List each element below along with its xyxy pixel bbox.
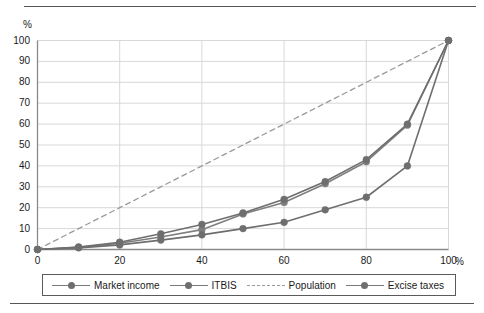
chart-legend: Market incomeITBISPopulationExcise taxes xyxy=(42,274,456,296)
legend-item[interactable]: Population xyxy=(243,279,342,291)
legend-marker-dot xyxy=(68,282,75,289)
legend-marker-dot xyxy=(361,282,368,289)
data-point-marker xyxy=(363,156,370,163)
data-point-marker xyxy=(445,37,452,44)
data-point-marker xyxy=(75,244,82,251)
legend-label: Population xyxy=(289,280,342,291)
data-point-marker xyxy=(116,242,123,249)
data-point-marker xyxy=(281,196,288,203)
data-point-marker xyxy=(240,210,247,217)
lorenz-curve-chart: % % 0102030405060708090100 020406080100 xyxy=(0,0,484,313)
data-point-marker xyxy=(322,206,329,213)
data-point-marker xyxy=(404,163,411,170)
legend-swatch xyxy=(52,279,90,291)
data-point-marker xyxy=(281,219,288,226)
legend-label: Market income xyxy=(94,280,166,291)
data-point-marker xyxy=(34,246,41,253)
legend-item[interactable]: Market income xyxy=(48,279,166,291)
legend-line xyxy=(247,285,285,286)
data-point-marker xyxy=(363,194,370,201)
data-point-marker xyxy=(199,221,206,228)
data-point-marker xyxy=(404,121,411,128)
data-point-marker xyxy=(157,237,164,244)
legend-item[interactable]: Excise taxes xyxy=(342,279,450,291)
legend-item[interactable]: ITBIS xyxy=(166,279,243,291)
chart-page: % % 0102030405060708090100 020406080100 … xyxy=(0,0,484,313)
legend-swatch xyxy=(247,279,285,291)
plot-canvas xyxy=(0,0,484,313)
legend-marker-dot xyxy=(185,282,192,289)
data-point-marker xyxy=(199,231,206,238)
legend-label: ITBIS xyxy=(212,280,243,291)
data-point-marker xyxy=(240,225,247,232)
data-point-marker xyxy=(157,230,164,237)
legend-swatch xyxy=(170,279,208,291)
legend-label: Excise taxes xyxy=(388,280,450,291)
legend-swatch xyxy=(346,279,384,291)
data-point-marker xyxy=(322,178,329,185)
